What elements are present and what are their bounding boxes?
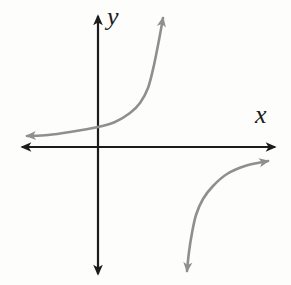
y-axis-label: y bbox=[107, 4, 119, 30]
plot-svg bbox=[0, 0, 291, 285]
x-axis-label: x bbox=[255, 102, 267, 128]
function-graph-figure: y x bbox=[0, 0, 291, 285]
lower-right-branch-curve bbox=[187, 161, 268, 271]
upper-left-branch-curve bbox=[27, 18, 163, 136]
